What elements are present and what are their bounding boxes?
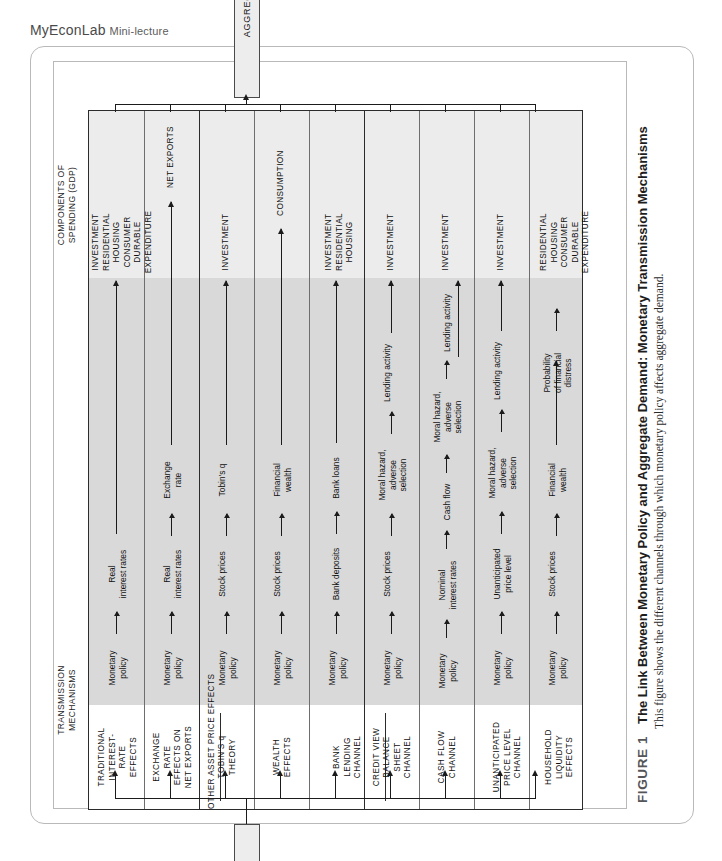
axis-label-components-of-spending: COMPONENTS OF SPENDING (GDP): [56, 120, 78, 290]
flow-step: Bank deposits: [331, 537, 342, 611]
flow-step: Monetary policy: [547, 637, 568, 699]
figure-number: FIGURE 1: [635, 736, 650, 803]
flow-step: Stock prices: [547, 539, 558, 609]
channel-name-traditional-interest-rate-effects: TRADITIONAL INTEREST- RATE EFFECTS: [97, 705, 139, 809]
flow-arrow: [281, 229, 282, 445]
policy-branch-arrow: [497, 770, 503, 776]
flow-arrow: [458, 281, 459, 357]
flow-arrow: [446, 620, 447, 638]
outcome-label: CONSUMPTION: [276, 143, 287, 223]
figure-title: The Link Between Monetary Policy and Agg…: [635, 126, 650, 724]
flow-step: Cash flow: [442, 475, 453, 529]
flow-step: Unanticipated price level: [492, 537, 513, 611]
flow-step: Real interest rates: [107, 539, 128, 609]
aggregate-branch: [280, 104, 281, 112]
flow-step: Moral hazard, adverse selection: [432, 381, 464, 453]
flow-step: Stock prices: [272, 539, 283, 609]
figure-card: TRANSMISSION MECHANISMS COMPONENTS OF SP…: [30, 46, 694, 824]
policy-trunk: [246, 798, 247, 824]
flow-step: Stock prices: [382, 539, 393, 609]
group-header-other-asset-price-effects: OTHER ASSET PRICE EFFECTS: [207, 705, 216, 809]
policy-branch: [535, 775, 536, 799]
outcome-label: RESIDENTIAL HOUSING CONSUMER DURABLE EXP…: [539, 209, 592, 275]
monetary-transmission-diagram: TRANSMISSION MECHANISMS COMPONENTS OF SP…: [54, 62, 628, 810]
flow-step: Exchange rate: [162, 449, 183, 511]
channel-matrix: OTHER ASSET PRICE EFFECTS CREDIT VIEW TR…: [88, 110, 583, 810]
row-separator: [309, 111, 310, 809]
monetary-policy-box: MONETARY POLICY: [234, 824, 260, 861]
aggregate-branch: [170, 104, 171, 112]
flow-arrow: [336, 512, 337, 534]
flow-arrow: [391, 412, 392, 434]
flow-step: Stock prices: [217, 539, 228, 609]
flow-arrow: [116, 281, 117, 534]
outcome-label: INVESTMENT: [496, 209, 507, 275]
figure-inner-frame: TRANSMISSION MECHANISMS COMPONENTS OF SP…: [53, 61, 627, 809]
policy-bus: [116, 798, 536, 799]
channel-name-household-liquidity-effects: HOUSEHOLD LIQUIDITY EFFECTS: [544, 705, 576, 809]
aggregate-branch: [500, 104, 501, 112]
outcome-label: INVESTMENT: [441, 209, 452, 275]
aggregate-branch: [445, 104, 446, 112]
flow-arrow: [171, 612, 172, 634]
row-separator: [254, 111, 255, 809]
flow-arrow: [446, 361, 447, 379]
policy-branch: [170, 775, 171, 799]
policy-branch-arrow: [112, 770, 118, 776]
flow-arrow: [501, 410, 502, 432]
channel-name-unanticipated-price-level-channel: UNANTICIPATED PRICE LEVEL CHANNEL: [492, 705, 524, 809]
flow-arrow: [391, 281, 392, 333]
aggregate-demand-label: AGGREGATE DEMAND: [242, 0, 252, 37]
flow-step: Financial wealth: [272, 449, 293, 511]
flow-step: Monetary policy: [327, 637, 348, 699]
flow-step: Monetary policy: [492, 637, 513, 699]
flow-step: Moral hazard, adverse selection: [377, 437, 409, 513]
row-separator: [474, 111, 475, 809]
figure-description: This figure shows the different channels…: [653, 67, 665, 729]
flow-arrow: [116, 612, 117, 634]
flow-step: Real interest rates: [162, 539, 183, 609]
flow-arrow: [336, 612, 337, 634]
policy-branch-arrow: [332, 770, 338, 776]
flow-step: Nominal interest rates: [437, 552, 458, 618]
outcome-label: INVESTMENT RESIDENTIAL HOUSING CONSUMER …: [91, 209, 154, 275]
policy-branch: [500, 775, 501, 799]
channel-name-wealth-effects: WEALTH EFFECTS: [272, 705, 293, 809]
channel-name-tobins-q-theory: TOBIN'S q THEORY: [217, 705, 238, 809]
flow-arrow: [446, 455, 447, 473]
outcome-label: INVESTMENT: [386, 209, 397, 275]
flow-step: Lending activity: [442, 287, 453, 359]
brand-label: MyEconLab: [30, 22, 106, 38]
flow-arrow: [226, 612, 227, 634]
policy-branch-arrow: [387, 770, 393, 776]
aggregate-trunk-arrow: [243, 94, 249, 100]
flow-step: Probability of financial distress: [542, 335, 574, 411]
flow-step: Monetary policy: [162, 637, 183, 699]
flow-arrow: [171, 514, 172, 536]
flow-arrow: [501, 281, 502, 331]
aggregate-branch: [115, 104, 116, 112]
flow-step: Monetary policy: [272, 637, 293, 699]
policy-branch-arrow: [167, 770, 173, 776]
aggregate-branch: [535, 104, 536, 112]
flow-arrow: [501, 512, 502, 534]
policy-branch: [335, 775, 336, 799]
aggregate-branch: [335, 104, 336, 112]
group-separator: [199, 111, 200, 809]
outcome-label: INVESTMENT: [221, 209, 232, 275]
flow-arrow: [556, 309, 557, 331]
row-separator: [529, 111, 530, 809]
flow-step: Monetary policy: [217, 637, 238, 699]
aggregate-demand-box: AGGREGATE DEMAND: [234, 0, 260, 98]
flow-step: Monetary policy: [107, 637, 128, 699]
flow-step: Moral hazard, adverse selection: [487, 435, 519, 511]
flow-step: Monetary policy: [437, 641, 458, 701]
policy-branch-arrow: [277, 770, 283, 776]
group-header-credit-view: CREDIT VIEW: [372, 705, 381, 809]
row-separator: [419, 111, 420, 809]
flow-arrow: [226, 281, 227, 445]
policy-branch-arrow: [532, 770, 538, 776]
policy-branch: [115, 775, 116, 799]
policy-branch: [225, 775, 226, 799]
flow-arrow: [556, 612, 557, 634]
